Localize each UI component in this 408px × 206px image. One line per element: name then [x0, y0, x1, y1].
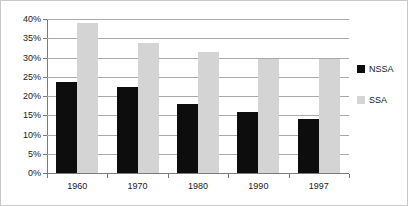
x-tick-mark [289, 174, 290, 178]
bar-group-1960 [56, 19, 98, 173]
bar-ssa-1960 [77, 23, 98, 173]
y-tick-label: 40% [3, 15, 41, 24]
chart-legend: NSSA SSA [357, 64, 407, 126]
x-axis-label-1997: 1997 [289, 181, 349, 191]
gridline-0% [47, 173, 349, 174]
y-tick-mark [43, 58, 47, 59]
legend-entry-nssa: NSSA [357, 64, 407, 74]
legend-swatch-ssa [357, 96, 365, 104]
bar-ssa-1990 [258, 59, 279, 173]
x-tick-mark [349, 174, 350, 178]
bar-group-1980 [177, 19, 219, 173]
bar-nssa-1960 [56, 82, 77, 173]
bar-nssa-1990 [237, 112, 258, 173]
bar-group-1970 [117, 19, 159, 173]
legend-entry-ssa: SSA [357, 95, 407, 105]
legend-label-nssa: NSSA [369, 65, 394, 74]
bar-group-1997 [298, 19, 340, 173]
x-axis-label-1970: 1970 [107, 181, 167, 191]
y-tick-mark [43, 135, 47, 136]
y-tick-label: 35% [3, 34, 41, 43]
bar-group-1990 [237, 19, 279, 173]
y-tick-label: 0% [3, 169, 41, 178]
legend-swatch-nssa [357, 65, 365, 73]
bar-nssa-1997 [298, 119, 319, 173]
y-tick-label: 30% [3, 54, 41, 63]
bar-chart-figure: 0%5%10%15%20%25%30%35%40% 19601970198019… [0, 0, 408, 206]
plot-area [47, 19, 349, 173]
y-tick-label: 10% [3, 131, 41, 140]
x-tick-mark [107, 174, 108, 178]
y-tick-mark [43, 96, 47, 97]
x-axis-label-1990: 1990 [228, 181, 288, 191]
y-tick-mark [43, 19, 47, 20]
bar-ssa-1970 [138, 43, 159, 173]
y-tick-mark [43, 154, 47, 155]
legend-label-ssa: SSA [369, 96, 387, 105]
bar-ssa-1997 [319, 59, 340, 173]
x-axis-label-1960: 1960 [47, 181, 107, 191]
y-axis-labels: 0%5%10%15%20%25%30%35%40% [1, 19, 41, 174]
y-tick-label: 15% [3, 111, 41, 120]
x-tick-mark [228, 174, 229, 178]
y-tick-label: 5% [3, 150, 41, 159]
y-tick-mark [43, 38, 47, 39]
bar-ssa-1980 [198, 52, 219, 173]
y-tick-label: 20% [3, 92, 41, 101]
bar-nssa-1980 [177, 104, 198, 173]
y-tick-mark [43, 77, 47, 78]
y-tick-mark [43, 115, 47, 116]
y-tick-label: 25% [3, 73, 41, 82]
x-tick-mark [47, 174, 48, 178]
bar-nssa-1970 [117, 87, 138, 173]
x-axis-label-1980: 1980 [168, 181, 228, 191]
x-tick-mark [168, 174, 169, 178]
